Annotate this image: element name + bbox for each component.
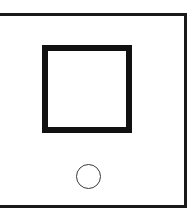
- diagram-canvas: [0, 0, 195, 220]
- square-outline-shape: [42, 45, 132, 133]
- circle-outline-shape: [76, 164, 101, 189]
